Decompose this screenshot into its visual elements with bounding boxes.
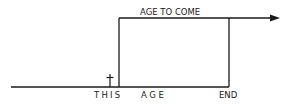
end-label: END <box>219 90 238 100</box>
cross-icon <box>107 74 114 87</box>
age-label: AGE <box>141 90 166 100</box>
arrow-right-icon <box>270 15 280 22</box>
age-to-come-label: AGE TO COME <box>140 7 200 17</box>
this-label: THIS <box>93 90 122 100</box>
two-ages-diagram: AGE TO COME THIS AGE END <box>0 0 286 104</box>
